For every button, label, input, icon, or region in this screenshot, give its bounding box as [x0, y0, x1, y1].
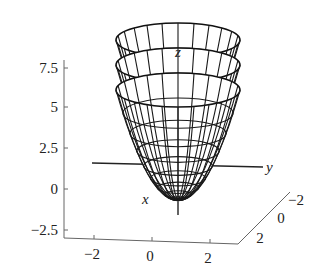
z-tick-7.5: 7.5: [39, 60, 58, 76]
paraboloid-layer-1: [116, 73, 240, 201]
z-tick-neg2.5: −2.5: [31, 222, 58, 238]
z-tick-0: 0: [51, 181, 59, 197]
x-axis-label: x: [141, 191, 149, 207]
z-tick-2.5: 2.5: [39, 140, 58, 156]
bottom-tick-0: 0: [146, 248, 154, 264]
side-tick-2: 2: [256, 230, 264, 246]
bottom-tick-neg2: −2: [84, 246, 100, 262]
side-tick-neg2: −2: [288, 192, 304, 208]
side-tick-0: 0: [277, 210, 285, 226]
z-tick-labels: 7.5 5 2.5 0 −2.5: [31, 60, 58, 238]
bottom-tick-labels: −2 0 2: [84, 246, 212, 266]
paraboloid-plot: 7.5 5 2.5 0 −2.5 −2 0 2 −2 0 2 z y x: [0, 0, 321, 277]
z-tick-5: 5: [51, 99, 59, 115]
z-axis-label: z: [174, 44, 181, 60]
bottom-tick-2: 2: [204, 250, 212, 266]
y-axis-label: y: [264, 159, 273, 175]
